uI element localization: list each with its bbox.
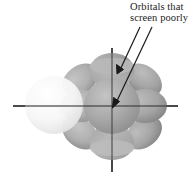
annotation-line-2: screen poorly xyxy=(130,12,194,23)
annotation-label: Orbitals that screen poorly xyxy=(130,1,194,23)
orbital-figure: Orbitals that screen poorly xyxy=(0,0,194,184)
annotation-line-1: Orbitals that xyxy=(130,1,194,12)
outer-shell-sphere xyxy=(25,76,83,134)
orbital-illustration xyxy=(0,0,194,184)
